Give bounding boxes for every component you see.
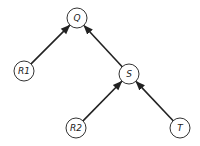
edge-r2-to-s [83,81,122,120]
node-label: Q [73,13,80,23]
node-t: T [170,118,190,138]
edge-s-to-q [84,26,122,67]
node-q: Q [67,8,87,28]
edge-r1-to-q [31,25,70,64]
node-r2: R2 [66,118,86,138]
node-r1: R1 [14,61,34,81]
edge-t-to-s [136,82,173,121]
node-label: R1 [18,66,30,76]
edges [31,25,173,120]
node-label: R2 [70,123,82,133]
node-s: S [119,64,139,84]
nodes: QR1SR2T [14,8,190,138]
diagram-canvas: QR1SR2T [0,0,200,146]
node-label: S [126,69,132,79]
